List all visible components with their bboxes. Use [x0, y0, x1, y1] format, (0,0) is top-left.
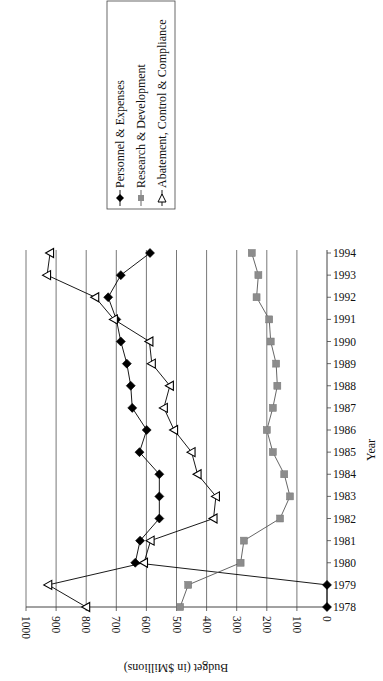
category-tick-label: 1979 — [333, 579, 356, 591]
value-tick-label: 300 — [231, 616, 243, 634]
category-tick-label: 1982 — [333, 513, 356, 525]
gridlines — [26, 250, 297, 607]
value-tick-label: 500 — [171, 616, 183, 634]
diamond-marker — [142, 426, 151, 435]
triangle-marker — [209, 514, 217, 523]
triangle-marker — [159, 403, 167, 412]
value-tick-label: 400 — [201, 616, 213, 634]
category-tick-label: 1994 — [333, 247, 356, 259]
legend-square-icon — [138, 195, 144, 201]
legend-label: Abatement, Control & Compliance — [155, 19, 169, 188]
square-marker — [277, 515, 284, 522]
triangle-marker — [43, 271, 51, 280]
value-axis-ticks: 01002003004005006007008009001000 — [20, 607, 333, 639]
category-tick-label: 1981 — [333, 535, 356, 547]
diamond-marker — [126, 381, 135, 390]
value-tick-label: 200 — [261, 616, 273, 634]
triangle-marker — [109, 315, 117, 324]
category-tick-label: 1992 — [333, 291, 356, 303]
square-marker — [273, 360, 280, 367]
square-marker — [269, 404, 276, 411]
legend-item: Abatement, Control & Compliance — [155, 19, 169, 206]
square-marker — [253, 294, 260, 301]
triangle-marker — [91, 293, 99, 302]
category-tick-label: 1985 — [333, 446, 356, 458]
diamond-marker — [116, 337, 125, 346]
value-tick-label: 0 — [321, 616, 333, 622]
value-tick-label: 700 — [110, 616, 122, 634]
diamond-marker — [122, 359, 131, 368]
series-line — [180, 253, 290, 607]
category-tick-label: 1984 — [333, 468, 356, 480]
square-marker — [274, 382, 281, 389]
category-axis-title: Year — [364, 439, 378, 461]
triangle-marker — [82, 603, 90, 612]
square-marker — [281, 471, 288, 478]
square-marker — [248, 250, 255, 257]
diamond-marker — [104, 293, 113, 302]
value-tick-label: 900 — [50, 616, 62, 634]
series-line — [47, 253, 216, 607]
series-abatement-control-compliance — [43, 249, 220, 612]
triangle-marker — [44, 580, 52, 589]
value-tick-label: 1000 — [20, 616, 32, 639]
square-marker — [240, 537, 247, 544]
category-tick-label: 1989 — [333, 358, 356, 370]
value-axis-title: Budget (in $Millions) — [124, 661, 229, 675]
category-tick-label: 1986 — [333, 424, 356, 436]
legend-label: Personnel & Expenses — [113, 80, 127, 188]
value-tick-label: 600 — [140, 616, 152, 634]
square-marker — [267, 338, 274, 345]
triangle-marker — [187, 448, 195, 457]
category-tick-label: 1990 — [333, 336, 356, 348]
series-research-development — [177, 250, 294, 611]
diamond-marker — [116, 271, 125, 280]
square-marker — [185, 581, 192, 588]
diamond-marker — [128, 403, 137, 412]
category-tick-label: 1987 — [333, 402, 356, 414]
category-tick-label: 1978 — [333, 601, 356, 613]
diamond-marker — [323, 603, 332, 612]
value-tick-label: 800 — [80, 616, 92, 634]
diamond-marker — [155, 492, 164, 501]
legend-item: Research & Development — [134, 63, 148, 206]
category-tick-label: 1991 — [333, 313, 356, 325]
value-tick-label: 100 — [291, 616, 303, 634]
square-marker — [255, 272, 262, 279]
series-line — [108, 253, 327, 607]
category-tick-label: 1988 — [333, 380, 356, 392]
diamond-marker — [323, 580, 332, 589]
triangle-marker — [170, 426, 178, 435]
square-marker — [237, 559, 244, 566]
diamond-marker — [146, 249, 155, 258]
square-marker — [266, 316, 273, 323]
square-marker — [269, 449, 276, 456]
legend-label: Research & Development — [134, 63, 148, 188]
category-tick-label: 1983 — [333, 490, 356, 502]
category-axis-ticks: 1978197919801981198219831984198519861987… — [327, 247, 356, 613]
legend-item: Personnel & Expenses — [113, 80, 127, 206]
category-tick-label: 1980 — [333, 557, 356, 569]
square-marker — [286, 493, 293, 500]
triangle-marker — [139, 558, 147, 567]
series-personnel-expenses — [104, 249, 332, 612]
square-marker — [177, 604, 184, 611]
line-chart: 01002003004005006007008009001000 1978197… — [0, 0, 383, 681]
category-tick-label: 1993 — [333, 269, 356, 281]
square-marker — [263, 427, 270, 434]
legend: Personnel & ExpensesResearch & Developme… — [107, 1, 175, 209]
